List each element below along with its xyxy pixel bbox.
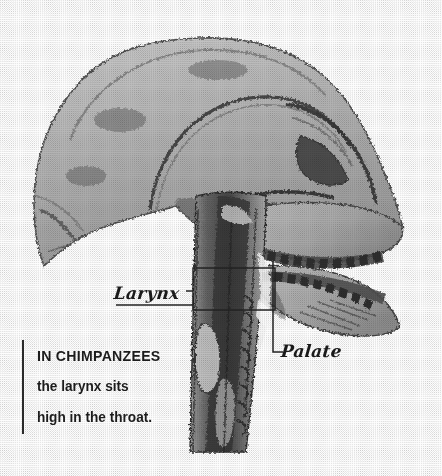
caption-block: IN CHIMPANZEES the larynx sits high in t… xyxy=(22,340,168,434)
caption-line-1: IN CHIMPANZEES xyxy=(37,340,161,371)
label-palate: Palate xyxy=(280,341,342,361)
chimpanzee-larynx-figure: Larynx Palate IN CHIMPANZEES the larynx … xyxy=(0,0,442,476)
caption-line-2: the larynx sits xyxy=(37,371,161,402)
label-larynx: Larynx xyxy=(113,283,181,303)
caption-line-3: high in the throat. xyxy=(37,402,161,433)
